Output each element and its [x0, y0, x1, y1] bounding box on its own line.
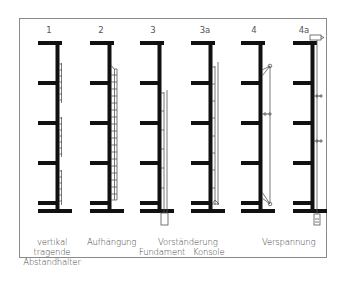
section-4a	[293, 35, 327, 225]
caption-col1-line1: vertikal	[37, 237, 67, 247]
section-2	[90, 41, 124, 213]
caption-col2: Aufhängung	[87, 237, 136, 247]
caption-col4-group: Verspannung	[262, 237, 315, 247]
caption-col1-line3: Abstandhalter	[23, 257, 80, 267]
section-3a	[191, 41, 225, 213]
section-1	[38, 41, 72, 213]
caption-col3-group: Vorständerung	[158, 237, 218, 247]
section-3	[140, 41, 174, 225]
caption-col1-line2: tragende	[34, 247, 71, 257]
caption-col3-sub: Fundament	[139, 247, 185, 257]
section-4	[241, 41, 275, 213]
caption-col3a-sub: Konsole	[193, 247, 225, 257]
